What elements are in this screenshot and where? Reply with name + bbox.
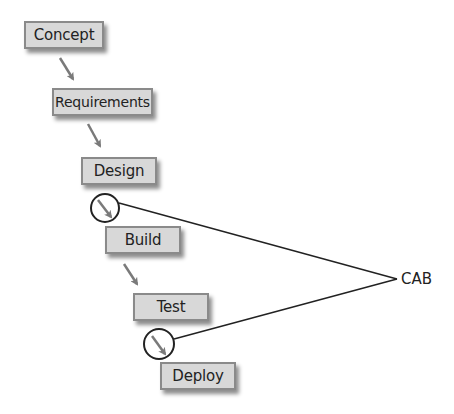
flow-arrow-icon [88, 124, 100, 146]
connector-layer [0, 0, 454, 414]
stage-concept: Concept [24, 21, 104, 49]
cab-label: CAB [401, 270, 432, 288]
flow-arrow-icon [98, 200, 111, 217]
diagram-canvas: Concept Requirements Design Build Test D… [0, 0, 454, 414]
stage-deploy: Deploy [160, 362, 236, 390]
stage-build: Build [105, 226, 181, 254]
flow-arrow-icon [124, 264, 137, 284]
stage-requirements: Requirements [52, 88, 153, 116]
flow-arrow-icon [152, 336, 165, 354]
flow-arrow-icon [60, 58, 73, 79]
stage-design: Design [81, 157, 157, 185]
stage-test: Test [133, 293, 209, 321]
